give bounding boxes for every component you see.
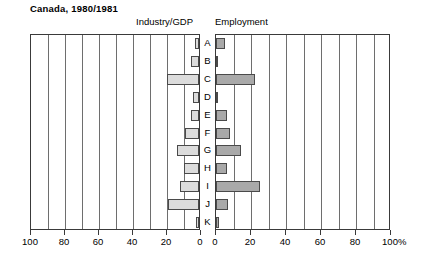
bar-industry-gdp-b xyxy=(191,56,199,67)
panel-header-industry-gdp: Industry/GDP xyxy=(136,16,193,27)
gridline xyxy=(234,35,235,229)
bar-employment-d xyxy=(216,92,218,103)
gridline xyxy=(48,35,49,229)
bar-industry-gdp-d xyxy=(193,92,199,103)
bar-employment-c xyxy=(216,74,255,85)
category-label-g: G xyxy=(200,144,215,155)
axis-tick-left xyxy=(166,230,167,235)
axis-tick-label-left-100: 100 xyxy=(22,236,38,247)
category-label-j: J xyxy=(200,198,215,209)
category-label-h: H xyxy=(200,162,215,173)
axis-tick-label-right-60: 60 xyxy=(315,236,326,247)
category-label-i: I xyxy=(200,180,215,191)
category-label-e: E xyxy=(200,109,215,120)
gridline xyxy=(304,35,305,229)
gridline xyxy=(286,35,287,229)
bar-employment-h xyxy=(216,163,227,174)
axis-tick-right xyxy=(320,230,321,235)
bar-employment-i xyxy=(216,181,260,192)
gridline xyxy=(269,35,270,229)
axis-tick-label-left-80: 80 xyxy=(59,236,70,247)
gridline xyxy=(116,35,117,229)
category-label-f: F xyxy=(200,127,215,138)
axis-tick-left xyxy=(98,230,99,235)
axis-tick-right xyxy=(285,230,286,235)
category-label-b: B xyxy=(200,55,215,66)
bar-industry-gdp-i xyxy=(180,181,199,192)
bar-industry-gdp-f xyxy=(185,128,199,139)
panel-header-employment: Employment xyxy=(215,16,268,27)
bar-employment-e xyxy=(216,110,227,121)
gridline xyxy=(356,35,357,229)
bar-industry-gdp-k xyxy=(196,217,199,228)
gridline xyxy=(65,35,66,229)
bar-industry-gdp-a xyxy=(195,38,199,49)
bar-industry-gdp-j xyxy=(168,199,199,210)
percent-symbol: % xyxy=(398,236,406,247)
bar-employment-b xyxy=(216,56,218,67)
axis-tick-label-left-0: 0 xyxy=(197,236,202,247)
axis-tick-label-right-40: 40 xyxy=(280,236,291,247)
axis-tick-left xyxy=(30,230,31,235)
plot-panel-employment xyxy=(215,34,390,230)
category-label-c: C xyxy=(200,73,215,84)
axis-tick-right xyxy=(215,230,216,235)
bar-industry-gdp-e xyxy=(191,110,200,121)
chart-container: Canada, 1980/1981 Industry/GDP Employmen… xyxy=(0,0,423,260)
axis-tick-right xyxy=(390,230,391,235)
chart-title: Canada, 1980/1981 xyxy=(30,3,118,14)
gridline xyxy=(321,35,322,229)
axis-tick-right xyxy=(250,230,251,235)
axis-tick-label-right-100: 100 xyxy=(382,236,398,247)
plot-panel-industry-gdp xyxy=(30,34,200,230)
gridline xyxy=(99,35,100,229)
gridline xyxy=(374,35,375,229)
axis-tick-label-right-0: 0 xyxy=(212,236,217,247)
bar-employment-g xyxy=(216,145,241,156)
axis-tick-label-left-20: 20 xyxy=(161,236,172,247)
category-label-a: A xyxy=(200,37,215,48)
gridline xyxy=(133,35,134,229)
bar-industry-gdp-h xyxy=(184,163,199,174)
axis-tick-label-left-60: 60 xyxy=(93,236,104,247)
gridline xyxy=(150,35,151,229)
category-label-column: ABCDEFGHIJK xyxy=(200,34,215,230)
axis-tick-left xyxy=(200,230,201,235)
category-label-d: D xyxy=(200,91,215,102)
axis-tick-right xyxy=(355,230,356,235)
gridline xyxy=(339,35,340,229)
axis-tick-left xyxy=(64,230,65,235)
gridline xyxy=(82,35,83,229)
bar-employment-j xyxy=(216,199,228,210)
bar-industry-gdp-g xyxy=(177,145,199,156)
axis-tick-label-left-40: 40 xyxy=(127,236,138,247)
bar-employment-a xyxy=(216,38,225,49)
bar-employment-f xyxy=(216,128,230,139)
category-label-k: K xyxy=(200,216,215,227)
axis-tick-label-right-80: 80 xyxy=(350,236,361,247)
gridline xyxy=(251,35,252,229)
bar-employment-k xyxy=(216,217,219,228)
axis-tick-left xyxy=(132,230,133,235)
bar-industry-gdp-c xyxy=(167,74,199,85)
axis-tick-label-right-20: 20 xyxy=(245,236,256,247)
